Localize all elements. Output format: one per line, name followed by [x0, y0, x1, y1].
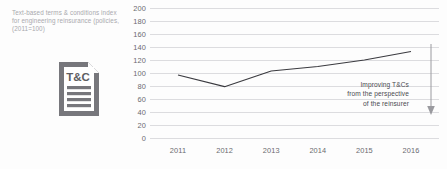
x-tick-label: 2016: [403, 146, 420, 155]
y-tick-label: 40: [138, 108, 146, 117]
chart-annotation: Improving T&Cs from the perspective of t…: [285, 80, 409, 108]
x-tick-label: 2013: [263, 146, 280, 155]
x-tick-label: 2015: [356, 146, 373, 155]
y-tick-label: 20: [138, 121, 146, 130]
y-tick-label: 0: [142, 134, 146, 143]
plot-area: 200180160140120100806040200 201120122013…: [150, 8, 439, 169]
document-icon: T&C: [57, 60, 101, 118]
y-tick-label: 120: [133, 56, 146, 65]
annotation-line-3: of the reinsurer: [285, 99, 409, 108]
annotation-line-2: from the perspective: [285, 89, 409, 98]
y-tick-label: 180: [133, 17, 146, 26]
y-tick-label: 60: [138, 95, 146, 104]
chart-caption: Text-based terms & conditions index for …: [12, 9, 144, 33]
data-series-line: [150, 8, 439, 138]
y-tick-label: 100: [133, 69, 146, 78]
x-tick-label: 2011: [170, 146, 186, 155]
caption-line-1: Text-based terms & conditions index: [12, 9, 144, 17]
gridline: [150, 138, 439, 139]
x-tick-label: 2014: [309, 146, 326, 155]
down-arrow-icon: [425, 44, 437, 116]
y-tick-label: 140: [133, 43, 146, 52]
caption-line-3: (2011=100): [12, 25, 144, 33]
chart-figure: Text-based terms & conditions index for …: [0, 0, 447, 169]
y-tick-label: 200: [133, 4, 146, 13]
document-icon-label: T&C: [66, 71, 90, 83]
annotation-line-1: Improving T&Cs: [285, 80, 409, 89]
y-tick-label: 160: [133, 30, 146, 39]
y-tick-label: 80: [138, 82, 146, 91]
x-tick-label: 2012: [216, 146, 233, 155]
caption-line-2: for engineering reinsurance (policies,: [12, 17, 144, 25]
